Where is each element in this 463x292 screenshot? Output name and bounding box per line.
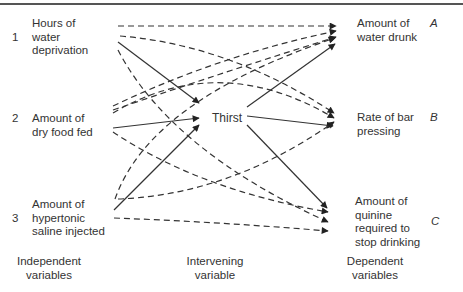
edge-3-thirst — [114, 125, 199, 210]
label-line: saline injected — [32, 225, 105, 239]
independent-number-2: 2 — [12, 112, 18, 124]
column-label-intervening: Intervening variable — [175, 255, 255, 282]
label-line: Independent — [12, 255, 86, 269]
label-line: water — [32, 31, 88, 45]
intervening-variable-thirst: Thirst — [212, 112, 242, 126]
independent-variable-3: Amount of hypertonic saline injected — [32, 198, 105, 239]
dependent-letter-a: A — [430, 17, 438, 29]
label-line: Amount of — [32, 198, 105, 212]
edge-thirst-b — [247, 116, 333, 126]
label-line: water drunk — [357, 31, 417, 45]
dependent-variable-b: Rate of bar pressing — [357, 111, 414, 138]
dependent-letter-c: C — [431, 215, 439, 227]
label-line: stop drinking — [355, 236, 420, 250]
independent-variable-1: Hours of water deprivation — [32, 17, 88, 58]
edge-2-thirst — [113, 118, 199, 128]
edge-2-a-2 — [113, 37, 336, 110]
label-line: Amount of — [357, 17, 417, 31]
column-label-independent: Independent variables — [12, 255, 86, 282]
edge-2-c — [113, 132, 328, 212]
label-line: Hours of — [32, 17, 88, 31]
independent-number-3: 3 — [12, 212, 18, 224]
label-line: variables — [340, 269, 410, 283]
edge-3-c — [114, 218, 328, 231]
label-line: Intervening — [175, 255, 255, 269]
edge-2-a-1 — [113, 31, 336, 106]
dependent-variable-a: Amount of water drunk — [357, 17, 417, 44]
label-line: required to — [355, 222, 420, 236]
label-line: hypertonic — [32, 212, 105, 226]
label-line: quinine — [355, 209, 420, 223]
independent-variable-2: Amount of dry food fed — [32, 112, 93, 139]
label-line: Dependent — [340, 255, 410, 269]
label-line: variable — [175, 269, 255, 283]
label-line: pressing — [357, 125, 414, 139]
edge-1-b — [120, 36, 334, 113]
label-line: dry food fed — [32, 126, 93, 140]
edge-1-thirst — [118, 42, 199, 103]
dependent-letter-b: B — [430, 111, 438, 123]
label-line: Amount of — [32, 112, 93, 126]
label-line: Amount of — [355, 195, 420, 209]
edge-thirst-c — [247, 125, 327, 208]
label-line: deprivation — [32, 44, 88, 58]
edge-3-b — [118, 122, 334, 199]
independent-number-1: 1 — [12, 31, 18, 43]
label-line: variables — [12, 269, 86, 283]
column-label-dependent: Dependent variables — [340, 255, 410, 282]
dependent-variable-c: Amount of quinine required to stop drink… — [355, 195, 420, 249]
label-line: Rate of bar — [357, 111, 414, 125]
